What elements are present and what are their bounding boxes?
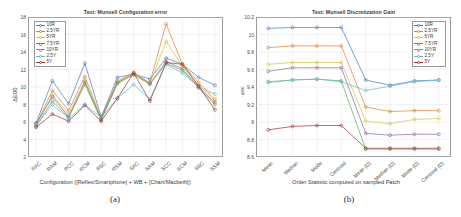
series-line xyxy=(268,68,439,135)
chart-b-title: Test: Munsell Discretization Gain xyxy=(256,9,451,15)
legend-marker-icon xyxy=(39,43,42,46)
legend-item-label: 2.5YR xyxy=(425,28,438,34)
y-axis-tick-label: 8 xyxy=(8,102,26,108)
y-axis-tick-label: 10 xyxy=(236,32,254,38)
legend-swatch-icon xyxy=(36,49,45,50)
legend-item-label: 10YR xyxy=(47,47,59,53)
legend-item-label: 5Y xyxy=(425,59,431,65)
chart-panel-b: Test: Munsell Discretization Gain ΔE00 8… xyxy=(231,0,461,217)
legend-item-label: 2.5Y xyxy=(425,53,434,59)
legend-item-label: 7.5YR xyxy=(47,41,60,47)
legend-item-label: 5Y xyxy=(47,59,53,65)
y-axis-tick-label: 4 xyxy=(8,137,26,143)
legend-marker-icon xyxy=(417,43,420,46)
chart-a-title: Test: Munsell Configuration error xyxy=(28,9,223,15)
legend-marker-icon xyxy=(417,55,420,58)
legend-marker-icon xyxy=(39,49,42,52)
y-axis-tick-label: 10 xyxy=(8,84,26,90)
y-axis-tick-label: 8.6 xyxy=(236,154,254,160)
y-axis-tick-label: 12 xyxy=(8,67,26,73)
y-axis-tick-label: 14 xyxy=(8,49,26,55)
legend-marker-icon xyxy=(417,24,420,27)
chart-a-legend[interactable]: 10R2.5YR5YR7.5YR10YR2.5Y5Y xyxy=(34,21,66,67)
legend-item-label: 10YR xyxy=(425,47,437,53)
y-axis-tick-label: 2 xyxy=(8,154,26,160)
legend-marker-icon xyxy=(39,61,42,64)
legend-marker-icon xyxy=(417,61,420,64)
legend-item-label: 2.5YR xyxy=(47,28,60,34)
legend-marker-icon xyxy=(417,36,420,39)
caption-b: (b) xyxy=(319,194,379,204)
legend-swatch-icon xyxy=(414,56,423,57)
legend-swatch-icon xyxy=(414,62,423,63)
legend-item-label: 7.5YR xyxy=(425,41,438,47)
legend-item-label: 5YR xyxy=(425,34,434,40)
legend-swatch-icon xyxy=(414,25,423,26)
legend-swatch-icon xyxy=(414,37,423,38)
y-axis-tick-label: 8.8 xyxy=(236,137,254,143)
series-line xyxy=(36,63,215,128)
y-axis-tick-label: 10.2 xyxy=(236,14,254,20)
chart-a-xlabel: Configuration ([Reflex/Smartphone] + WB … xyxy=(6,179,224,185)
legend-item-label: 10R xyxy=(47,22,55,28)
y-axis-tick-label: 6 xyxy=(8,119,26,125)
legend-item-label: 5YR xyxy=(47,34,56,40)
series-line xyxy=(268,79,439,149)
series-line xyxy=(268,126,439,149)
y-axis-tick-label: 9.2 xyxy=(236,102,254,108)
legend-marker-icon xyxy=(39,36,42,39)
legend-swatch-icon xyxy=(36,31,45,32)
legend-swatch-icon xyxy=(414,43,423,44)
caption-a: (a) xyxy=(85,194,145,204)
y-axis-tick-label: 9.4 xyxy=(236,84,254,90)
chart-b-legend[interactable]: 10R2.5YR5YR7.5YR10YR2.5Y5Y xyxy=(412,21,446,67)
legend-marker-icon xyxy=(39,24,42,27)
legend-swatch-icon xyxy=(36,43,45,44)
y-axis-tick-label: 18 xyxy=(8,14,26,20)
chart-b-xlabel: Order Statistic computed on sampled Patc… xyxy=(241,179,451,185)
legend-item-label: 2.5Y xyxy=(47,53,56,59)
y-axis-tick-label: 9 xyxy=(236,119,254,125)
y-axis-tick-label: 9.8 xyxy=(236,49,254,55)
chart-panel-a: Test: Munsell Configuration error ΔE00 2… xyxy=(0,0,230,217)
figure-container: Test: Munsell Configuration error ΔE00 2… xyxy=(0,0,461,217)
legend-marker-icon xyxy=(417,49,420,52)
legend-swatch-icon xyxy=(414,49,423,50)
legend-marker-icon xyxy=(39,30,42,33)
legend-swatch-icon xyxy=(36,56,45,57)
legend-marker-icon xyxy=(39,55,42,58)
legend-marker-icon xyxy=(417,30,420,33)
legend-item[interactable]: 5Y xyxy=(413,59,445,65)
legend-item[interactable]: 5Y xyxy=(35,59,65,65)
series-line xyxy=(36,64,215,125)
legend-swatch-icon xyxy=(36,25,45,26)
legend-swatch-icon xyxy=(414,31,423,32)
legend-item-label: 10R xyxy=(425,22,433,28)
legend-swatch-icon xyxy=(36,37,45,38)
legend-swatch-icon xyxy=(36,62,45,63)
y-axis-tick-label: 16 xyxy=(8,32,26,38)
y-axis-tick-label: 9.6 xyxy=(236,67,254,73)
